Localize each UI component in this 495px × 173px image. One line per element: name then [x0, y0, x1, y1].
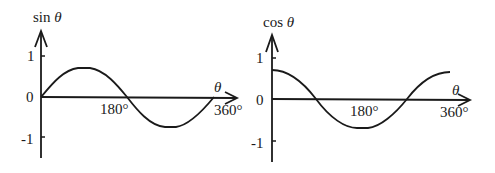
- cos-x-tick-180-label: 180°: [350, 103, 379, 119]
- sine-chart: sin θ 1 0 -1 θ 180° 360°: [21, 9, 243, 158]
- sin-x-axis: [41, 97, 236, 98]
- trig-graphs: sin θ 1 0 -1 θ 180° 360° cos θ: [0, 0, 495, 173]
- cos-y-tick-neg1-label: -1: [251, 135, 264, 151]
- sin-x-tick-180-label: 180°: [100, 101, 129, 117]
- cos-y-axis-label: cos θ: [263, 14, 295, 30]
- sin-x-tick-360-label: 360°: [214, 102, 243, 118]
- sin-y-tick-0-label: 0: [26, 89, 34, 105]
- sin-y-tick-neg1-label: -1: [21, 131, 34, 147]
- sin-y-axis-label: sin θ: [33, 9, 62, 25]
- cos-y-tick-0-label: 0: [256, 92, 264, 108]
- sin-x-axis-label: θ: [214, 79, 222, 95]
- cos-x-axis: [272, 99, 469, 100]
- cos-y-tick-1-label: 1: [256, 50, 264, 66]
- cos-x-tick-360-label: 360°: [440, 104, 469, 120]
- sin-y-tick-1-label: 1: [27, 48, 35, 64]
- cos-x-axis-label: θ: [452, 82, 460, 98]
- cosine-chart: cos θ 1 0 -1 θ 180° 360°: [251, 14, 470, 162]
